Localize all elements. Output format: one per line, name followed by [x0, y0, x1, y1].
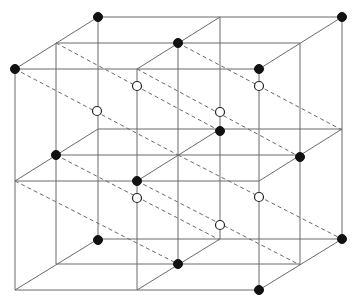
filled-atom-node [52, 151, 61, 160]
open-atom-node [93, 107, 102, 116]
filled-atom-node [174, 39, 183, 48]
filled-atom-node [94, 13, 103, 22]
open-atom-node [255, 82, 264, 91]
filled-atom-node [94, 236, 103, 245]
filled-atom-node [338, 235, 347, 244]
lattice-svg [0, 0, 355, 304]
filled-atom-node [11, 65, 20, 74]
open-atom-node [216, 108, 225, 117]
open-atom-node [216, 221, 225, 230]
dashed-diagonal [15, 181, 178, 264]
lattice-diagram [0, 0, 355, 304]
open-atom-node [133, 82, 142, 91]
filled-atom-node [255, 286, 264, 295]
filled-atom-node [296, 153, 305, 162]
open-atom-node [133, 194, 142, 203]
filled-atom-node [338, 13, 347, 22]
filled-atom-node [133, 177, 142, 186]
filled-atom-node [255, 65, 264, 74]
filled-atom-node [174, 260, 183, 269]
open-atom-node [255, 193, 264, 202]
filled-atom-node [216, 127, 225, 136]
